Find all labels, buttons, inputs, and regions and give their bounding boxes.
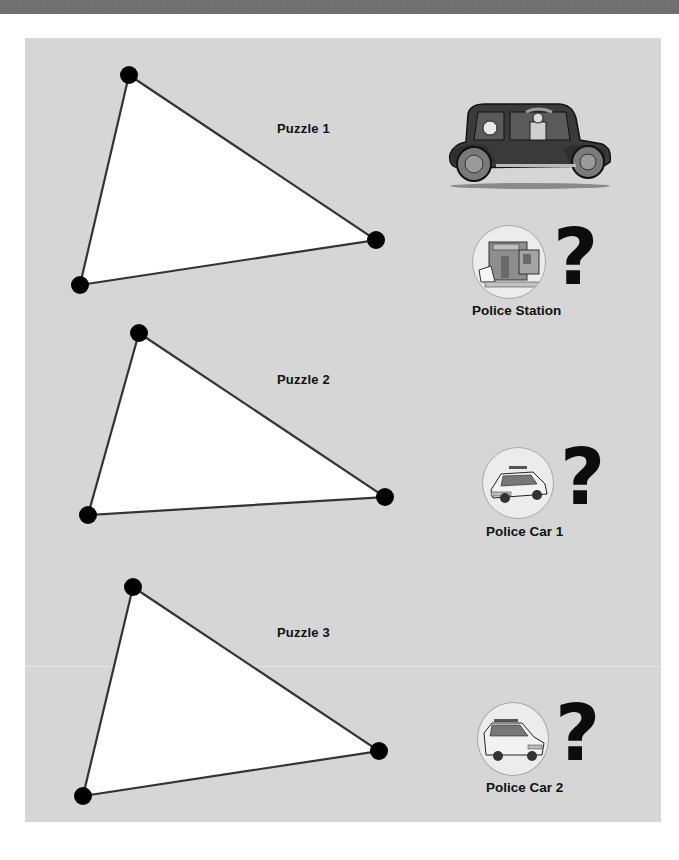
vertex-dot[interactable] (71, 276, 89, 294)
getaway-car-icon (440, 92, 620, 192)
target-label-police-station: Police Station (472, 303, 561, 318)
police-car-1-icon[interactable] (482, 447, 554, 519)
vertex-dot[interactable] (74, 787, 92, 805)
police-car-2-icon[interactable] (477, 702, 549, 776)
police-car-drawing (478, 703, 549, 776)
police-station-drawing (473, 226, 546, 299)
police-station-icon[interactable] (472, 225, 546, 299)
police-car-drawing (483, 448, 554, 519)
puzzle-2-label: Puzzle 2 (277, 372, 330, 387)
puzzle-1-label: Puzzle 1 (277, 121, 330, 136)
vertex-dot[interactable] (130, 324, 148, 342)
target-label-police-car-2: Police Car 2 (486, 780, 563, 795)
target-label-police-car-1: Police Car 1 (486, 524, 563, 539)
vertex-dot[interactable] (124, 578, 142, 596)
puzzle-3-label: Puzzle 3 (277, 625, 330, 640)
question-mark-icon: ? (553, 218, 598, 296)
puzzle-1-triangle[interactable] (71, 66, 385, 294)
puzzle-2-triangle[interactable] (79, 324, 394, 524)
question-mark-icon: ? (560, 438, 605, 516)
puzzle-3-triangle[interactable] (74, 578, 388, 805)
vertex-dot[interactable] (120, 66, 138, 84)
vertex-dot[interactable] (376, 488, 394, 506)
vertex-dot[interactable] (79, 506, 97, 524)
vertex-dot[interactable] (367, 231, 385, 249)
question-mark-icon: ? (555, 694, 600, 772)
vertex-dot[interactable] (370, 742, 388, 760)
